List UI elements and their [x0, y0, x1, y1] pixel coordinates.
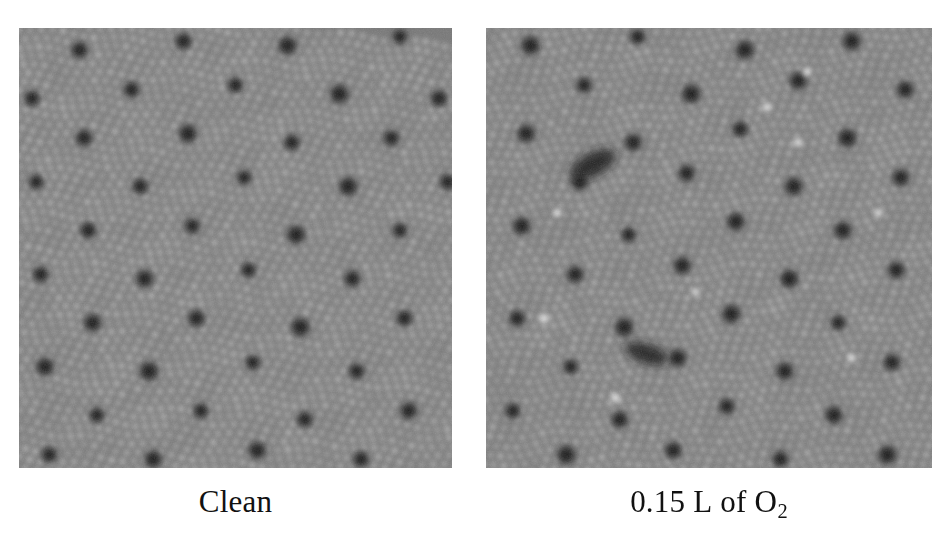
- caption-oxygen: 0.15 L of O2: [486, 486, 932, 517]
- panel-clean: [19, 28, 452, 468]
- caption-oxygen-unit: L: [693, 484, 712, 519]
- caption-clean: Clean: [19, 486, 452, 517]
- stm-image-clean: [19, 28, 452, 468]
- stm-oxygen-canvas: [486, 28, 932, 468]
- caption-oxygen-connector: of: [720, 484, 746, 519]
- stm-figure: Clean 0.15 L of O2: [0, 0, 950, 539]
- stm-image-oxygen: [486, 28, 932, 468]
- caption-clean-text: Clean: [199, 484, 272, 519]
- scan-noise-overlay: [19, 28, 452, 468]
- caption-oxygen-species: O: [754, 484, 777, 519]
- caption-oxygen-dose: 0.15: [630, 484, 685, 519]
- scan-noise-overlay: [486, 28, 932, 468]
- panel-oxygen: [486, 28, 932, 468]
- caption-oxygen-subscript: 2: [777, 500, 788, 522]
- stm-clean-canvas: [19, 28, 452, 468]
